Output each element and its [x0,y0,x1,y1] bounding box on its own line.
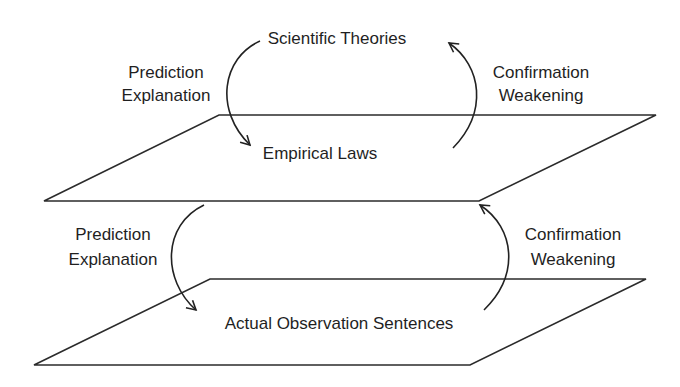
scientific-theories-label: Scientific Theories [268,29,407,48]
observation-sentences-label: Actual Observation Sentences [225,314,454,333]
prediction-arrow-upper [227,41,260,145]
upper-explanation-label: Explanation [122,86,211,105]
prediction-arrow-lower [171,205,204,310]
upper-prediction-label: Prediction [128,63,204,82]
confirmation-arrow-lower [480,205,509,310]
lower-confirmation-label: Confirmation [525,225,621,244]
upper-confirmation-label: Confirmation [493,63,589,82]
confirmation-arrow-upper [449,43,477,148]
lower-prediction-label: Prediction [75,225,151,244]
diagram-canvas: Scientific Theories Empirical Laws Actua… [0,0,680,387]
empirical-laws-label: Empirical Laws [263,144,377,163]
lower-weakening-label: Weakening [531,250,616,269]
upper-weakening-label: Weakening [499,86,584,105]
lower-explanation-label: Explanation [69,250,158,269]
